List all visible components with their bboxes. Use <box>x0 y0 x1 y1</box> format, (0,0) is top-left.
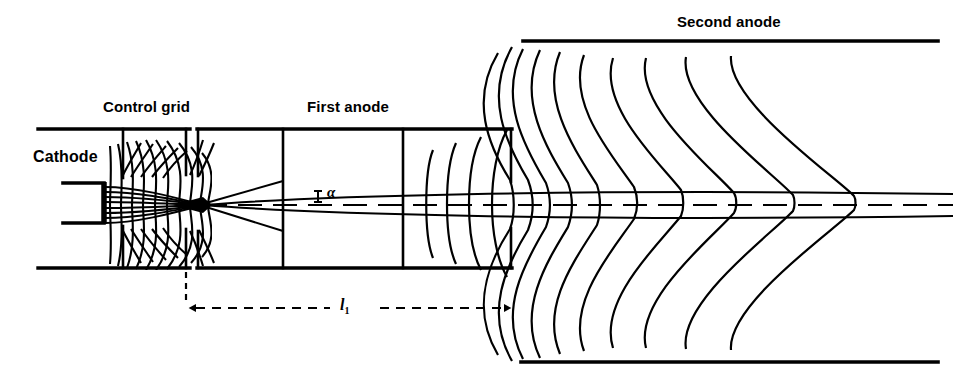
first-anode-walls <box>198 129 511 268</box>
label-distance-l1: l1 <box>340 296 350 316</box>
label-control-grid: Control grid <box>103 98 190 115</box>
second-anode-electrode <box>521 41 938 362</box>
cathode-electrode <box>63 182 104 224</box>
distance-subscript: 1 <box>345 305 350 316</box>
label-first-anode: First anode <box>307 98 389 115</box>
label-half-angle-alpha: α <box>327 184 335 201</box>
figure-canvas: Control grid Cathode First anode Second … <box>0 0 953 386</box>
electron-gun-drawing <box>0 0 953 386</box>
label-second-anode: Second anode <box>677 13 781 30</box>
alpha-angle-marker <box>314 190 322 203</box>
label-cathode: Cathode <box>33 148 98 166</box>
first-anode-electrode <box>197 129 512 268</box>
